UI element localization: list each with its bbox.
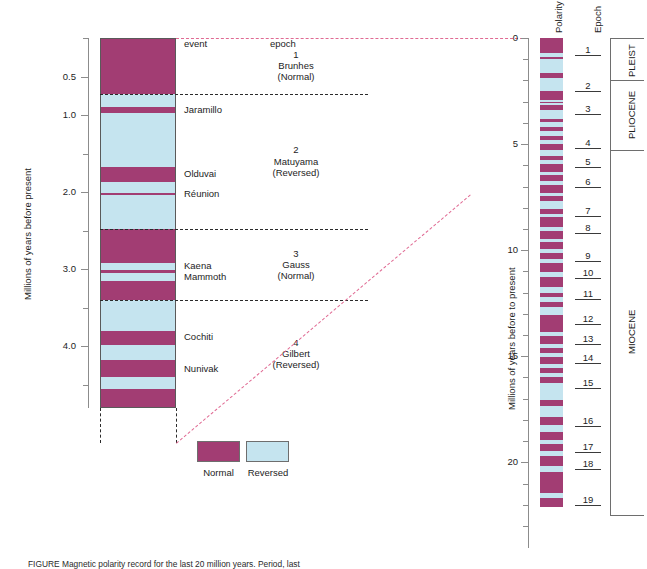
- left-axis-minor-tick: [83, 154, 88, 155]
- left-axis-minor-tick: [83, 385, 88, 386]
- left-axis-minor-tick: [83, 231, 88, 232]
- summary-polarity-band: [540, 498, 563, 506]
- right-axis-minor-tick: [523, 526, 528, 527]
- right-axis-tick-label: 10: [496, 244, 518, 255]
- right-axis-tick-label: 0: [496, 32, 518, 43]
- anomaly-number-rule: [575, 114, 601, 115]
- summary-polarity-band: [540, 201, 563, 208]
- right-axis-minor-tick: [523, 271, 528, 272]
- right-axis-major-tick: [521, 462, 528, 463]
- summary-polarity-band: [540, 406, 563, 417]
- right-axis-minor-tick: [523, 399, 528, 400]
- event-column-header: event: [184, 38, 207, 49]
- event-label: Olduvai: [184, 168, 216, 179]
- geologic-epoch-boundary: [610, 150, 644, 151]
- anomaly-number-label: 10: [575, 267, 601, 278]
- geologic-epoch-label: MIOCENE: [626, 310, 637, 354]
- geologic-epoch-divider: [610, 150, 611, 515]
- left-axis-tick-label: 4.0: [52, 340, 76, 351]
- event-label: Kaena: [184, 260, 211, 271]
- right-axis-minor-tick: [523, 102, 528, 103]
- summary-polarity-band: [540, 263, 563, 273]
- anomaly-number-label: 13: [575, 333, 601, 344]
- legend-swatch-reversed: [246, 441, 289, 462]
- anomaly-number-label: 14: [575, 352, 601, 363]
- magnetic-epoch-block: 1Brunhes(Normal): [248, 49, 344, 83]
- anomaly-number-rule: [575, 388, 601, 389]
- summary-polarity-band: [540, 456, 563, 466]
- right-axis-tick-label: 20: [496, 456, 518, 467]
- anomaly-number-label: 4: [575, 137, 601, 148]
- detail-polarity-band: [100, 273, 176, 281]
- left-axis-major-tick: [81, 346, 88, 347]
- magnetic-epoch-name: Brunhes: [248, 60, 344, 71]
- magnetic-epoch-name: Gauss: [248, 259, 344, 270]
- anomaly-number-label: 6: [575, 176, 601, 187]
- anomaly-number-rule: [575, 91, 601, 92]
- anomaly-number-rule: [575, 324, 601, 325]
- magnetic-epoch-name: Matuyama: [248, 156, 344, 167]
- anomaly-number-rule: [575, 426, 601, 427]
- anomaly-number-rule: [575, 505, 601, 506]
- right-axis-minor-tick: [523, 123, 528, 124]
- detail-column-extension-right: [176, 408, 177, 443]
- detail-polarity-band: [100, 229, 176, 263]
- geologic-epoch-label: PLEIST: [626, 44, 637, 77]
- left-axis-major-tick: [81, 77, 88, 78]
- summary-polarity-band: [540, 307, 563, 314]
- summary-polarity-band: [540, 185, 563, 192]
- magnetic-epoch-number: 3: [248, 248, 344, 259]
- right-axis-minor-tick: [523, 59, 528, 60]
- anomaly-number-label: 12: [575, 313, 601, 324]
- anomaly-number-rule: [575, 452, 601, 453]
- magnetic-epoch-block: 2Matuyama(Reversed): [248, 144, 344, 178]
- right-axis-minor-tick: [523, 420, 528, 421]
- detail-polarity-band: [100, 331, 176, 345]
- detail-polarity-band: [100, 94, 176, 108]
- anomaly-number-rule: [575, 261, 601, 262]
- magnetic-polarity-figure: Millions of years before present 0.51.02…: [0, 0, 647, 569]
- right-axis-minor-tick: [523, 441, 528, 442]
- detail-polarity-band: [100, 113, 176, 167]
- detail-column-extension-left: [100, 408, 101, 443]
- anomaly-number-rule: [575, 148, 601, 149]
- polarity-column-header: Polarity: [553, 1, 564, 33]
- anomaly-number-rule: [575, 167, 601, 168]
- summary-polarity-band: [540, 59, 563, 74]
- summary-polarity-band: [540, 315, 563, 332]
- right-axis-minor-tick: [523, 335, 528, 336]
- right-axis-minor-tick: [523, 187, 528, 188]
- magnetic-epoch-polarity: (Normal): [248, 71, 344, 82]
- anomaly-number-label: 5: [575, 156, 601, 167]
- summary-polarity-band: [540, 81, 563, 90]
- left-axis-tick-label: 0.5: [52, 71, 76, 82]
- magnetic-epoch-divider: [100, 229, 368, 230]
- left-axis-label: Millions of years before present: [22, 168, 33, 300]
- detail-polarity-band: [100, 300, 176, 331]
- right-axis-tick-label: 5: [496, 138, 518, 149]
- epoch-column-header-right: Epoch: [592, 6, 603, 33]
- geologic-epoch-divider: [610, 38, 611, 80]
- detail-polarity-band: [100, 38, 176, 94]
- summary-polarity-band: [540, 38, 563, 53]
- anomaly-number-rule: [575, 299, 601, 300]
- anomaly-number-rule: [575, 233, 601, 234]
- left-axis-minor-tick: [83, 38, 88, 39]
- magnetic-epoch-divider: [100, 300, 368, 301]
- detail-polarity-band: [100, 360, 176, 377]
- anomaly-number-label: 19: [575, 494, 601, 505]
- correlation-line-top: [176, 38, 528, 39]
- magnetic-epoch-name: Gilbert: [248, 348, 344, 359]
- geologic-epoch-boundary: [610, 38, 644, 39]
- summary-polarity-band: [540, 242, 563, 249]
- summary-polarity-band: [540, 110, 563, 118]
- right-axis-major-tick: [521, 144, 528, 145]
- detail-polarity-band: [100, 345, 176, 360]
- summary-polarity-band: [540, 417, 563, 425]
- anomaly-number-label: 9: [575, 250, 601, 261]
- detail-polarity-band: [100, 182, 176, 193]
- anomaly-number-label: 3: [575, 103, 601, 114]
- anomaly-number-label: 11: [575, 288, 601, 299]
- detail-polarity-band: [100, 167, 176, 182]
- left-axis-minor-tick: [83, 308, 88, 309]
